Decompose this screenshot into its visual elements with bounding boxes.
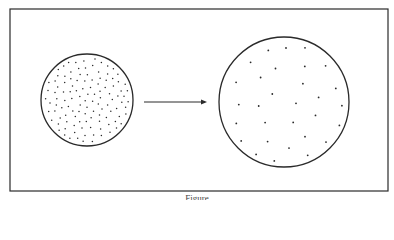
dot bbox=[58, 130, 60, 132]
dot bbox=[271, 93, 273, 95]
dot bbox=[307, 154, 309, 156]
dot bbox=[79, 104, 81, 106]
dot bbox=[113, 68, 115, 70]
dot bbox=[78, 68, 80, 70]
dot bbox=[92, 141, 94, 143]
dot bbox=[285, 47, 287, 49]
dot bbox=[61, 107, 63, 109]
dot bbox=[100, 128, 102, 130]
dot bbox=[110, 111, 112, 113]
dot bbox=[121, 102, 123, 104]
dot bbox=[267, 50, 269, 52]
dot bbox=[84, 100, 86, 102]
dot bbox=[63, 65, 64, 67]
dot bbox=[84, 113, 86, 115]
dot bbox=[81, 127, 83, 129]
sparse-circle bbox=[219, 37, 349, 167]
dot bbox=[339, 125, 341, 127]
dot bbox=[113, 85, 115, 87]
dot bbox=[74, 132, 76, 134]
dot bbox=[56, 98, 58, 100]
dot bbox=[59, 117, 61, 119]
dot bbox=[101, 62, 103, 64]
dot bbox=[105, 79, 107, 81]
dot bbox=[58, 69, 60, 71]
dot bbox=[97, 83, 99, 85]
dot bbox=[119, 116, 121, 118]
dot bbox=[116, 108, 118, 110]
dot bbox=[250, 61, 252, 63]
dot bbox=[109, 131, 111, 133]
dot bbox=[47, 90, 49, 92]
dot bbox=[71, 98, 73, 100]
dot bbox=[90, 117, 92, 119]
dot bbox=[125, 107, 127, 109]
dot bbox=[127, 101, 129, 103]
dot bbox=[107, 104, 109, 106]
dot bbox=[73, 125, 75, 127]
dot bbox=[98, 71, 100, 73]
dot bbox=[90, 127, 92, 129]
dot bbox=[240, 140, 242, 142]
dot bbox=[63, 91, 65, 93]
dot bbox=[58, 123, 60, 125]
dot bbox=[341, 105, 343, 107]
dot bbox=[64, 82, 66, 84]
dot bbox=[54, 80, 56, 82]
dot bbox=[57, 75, 59, 77]
dot bbox=[238, 104, 240, 106]
dot bbox=[85, 67, 87, 69]
dot bbox=[49, 102, 51, 104]
dot bbox=[304, 47, 306, 49]
dot bbox=[99, 120, 101, 122]
dot bbox=[107, 73, 109, 75]
dot bbox=[123, 95, 125, 97]
dot bbox=[56, 104, 58, 106]
dot bbox=[82, 88, 84, 90]
dot bbox=[267, 141, 269, 143]
dot bbox=[264, 122, 266, 124]
dot bbox=[69, 138, 71, 140]
dot bbox=[87, 94, 89, 96]
dot bbox=[101, 108, 103, 110]
dot bbox=[64, 75, 66, 77]
dot bbox=[120, 123, 122, 125]
dot bbox=[99, 91, 101, 93]
arrow-icon bbox=[144, 100, 207, 105]
dot bbox=[72, 110, 74, 112]
figure-caption: Figure bbox=[0, 193, 394, 200]
dot bbox=[64, 134, 66, 136]
dot bbox=[288, 147, 290, 149]
dot bbox=[100, 97, 102, 99]
dot bbox=[127, 90, 128, 92]
dot bbox=[116, 127, 118, 128]
dot bbox=[65, 115, 67, 117]
dot bbox=[75, 62, 77, 64]
dot bbox=[104, 87, 106, 89]
dot bbox=[77, 138, 79, 140]
dot bbox=[94, 58, 96, 60]
dot bbox=[48, 111, 50, 113]
dot bbox=[98, 103, 100, 105]
dot bbox=[68, 62, 70, 64]
dense-circle bbox=[41, 54, 133, 146]
dot bbox=[273, 160, 275, 162]
dot bbox=[118, 81, 120, 83]
dot bbox=[70, 78, 72, 80]
dot bbox=[48, 82, 50, 84]
dot bbox=[83, 60, 85, 62]
dot bbox=[93, 111, 95, 113]
dot bbox=[91, 79, 93, 81]
dot bbox=[304, 66, 306, 68]
dot bbox=[69, 91, 71, 93]
dot bbox=[260, 77, 262, 79]
dot bbox=[275, 68, 277, 70]
dot bbox=[93, 134, 95, 136]
dot bbox=[78, 111, 80, 113]
dot bbox=[117, 73, 119, 75]
dot bbox=[76, 80, 78, 82]
dot bbox=[318, 97, 320, 99]
dot bbox=[255, 154, 257, 156]
dot bbox=[325, 141, 327, 143]
sparse-circle-outline bbox=[219, 37, 349, 167]
